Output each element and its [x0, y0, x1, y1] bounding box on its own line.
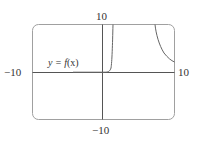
function-label-prefix: y =: [48, 57, 64, 68]
curve-right-branch: [155, 25, 175, 63]
graph-window: 10 −10 −10 10 y = f(x): [0, 0, 199, 146]
function-label-arg: (x): [67, 57, 79, 68]
curve-left-branch: [73, 25, 113, 73]
x-min-tick-label: −10: [4, 67, 21, 78]
y-max-tick-label: 10: [96, 11, 107, 22]
x-max-tick-label: 10: [178, 67, 189, 78]
y-min-tick-label: −10: [92, 125, 109, 136]
function-label: y = f(x): [48, 58, 79, 68]
